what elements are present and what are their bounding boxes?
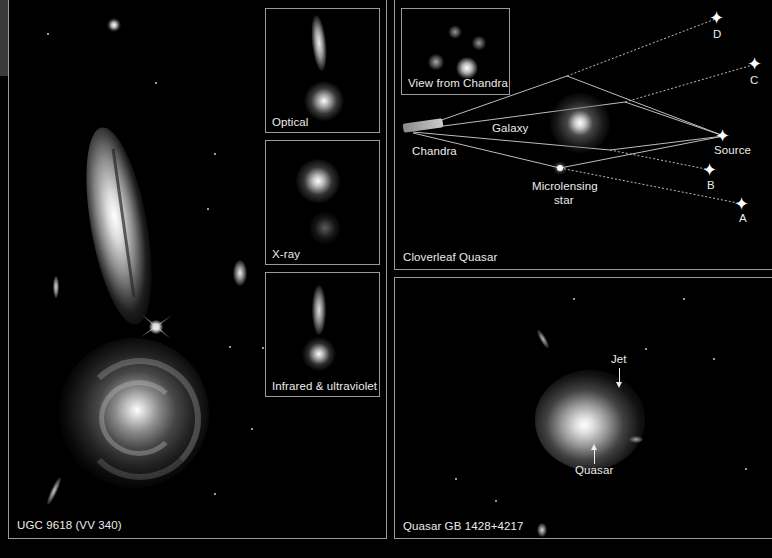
sparkle-icon-c: ✦ [747, 55, 762, 73]
label-image-c: C [750, 74, 758, 86]
small-galaxy [45, 476, 63, 506]
quasar-arrow-head [591, 444, 597, 450]
small-galaxy [535, 328, 551, 350]
star [207, 208, 209, 210]
panel-ugc-9618: Optical X-ray Infrared & ultraviolet UGC… [8, 0, 387, 539]
small-galaxy [53, 276, 59, 298]
star [214, 153, 216, 155]
label-image-a: A [739, 212, 747, 224]
inset-label: X-ray [272, 248, 300, 260]
small-galaxy [537, 523, 547, 537]
star [683, 298, 685, 300]
label-microlensing: Microlensing [532, 180, 598, 192]
sparkle-icon-b: ✦ [702, 161, 717, 179]
quasar-arrow-icon [594, 450, 595, 464]
label-jet: Jet [611, 353, 627, 365]
ir-galaxy [312, 285, 326, 335]
ir-spiral [302, 337, 336, 371]
label-chandra: Chandra [412, 145, 457, 157]
xray-blob-faint [310, 211, 340, 245]
label-image-d: D [713, 28, 721, 40]
inset-xray: X-ray [265, 140, 380, 265]
image-blob [472, 35, 486, 51]
bright-star [107, 18, 121, 32]
label-image-b: B [707, 179, 715, 191]
panel-label: Cloverleaf Quasar [403, 251, 497, 263]
star [455, 478, 457, 480]
panel-label: UGC 9618 (VV 340) [17, 519, 122, 531]
edge-on-galaxy [74, 123, 164, 330]
star [495, 500, 497, 502]
jet-arrow-head [616, 382, 622, 388]
small-galaxy [233, 260, 247, 286]
sparkle-icon-a: ✦ [734, 195, 749, 213]
sparkle-icon-d: ✦ [709, 9, 724, 27]
inset-infrared-uv: Infrared & ultraviolet [265, 272, 380, 397]
xray-blob [296, 159, 340, 203]
star [645, 348, 647, 350]
panel-quasar-gb1428: Jet Quasar Quasar GB 1428+4217 [394, 277, 772, 539]
image-blob [456, 57, 478, 79]
inset-view-from-chandra: View from Chandra [401, 8, 510, 95]
quasar-glow [535, 370, 645, 470]
galaxy-thumb [309, 14, 329, 71]
inset-optical: Optical [265, 8, 380, 133]
inset-label: View from Chandra [408, 77, 508, 89]
inset-label: Infrared & ultraviolet [272, 380, 377, 392]
star [745, 468, 747, 470]
panel-cloverleaf: ✦ ✦ ✦ ✦ ✦ View from Chandra Chandra Gala… [394, 0, 772, 270]
star [155, 82, 157, 84]
inset-label: Optical [272, 116, 309, 128]
label-galaxy: Galaxy [492, 122, 528, 134]
spiral-arm [99, 380, 179, 456]
spiral-thumb [304, 81, 344, 121]
star [573, 298, 575, 300]
label-source: Source [714, 144, 751, 156]
star [262, 347, 264, 349]
star [214, 493, 216, 495]
label-star: star [554, 194, 574, 206]
star [713, 358, 715, 360]
star [229, 346, 231, 348]
star [251, 428, 253, 430]
lensing-galaxy [550, 93, 610, 153]
label-quasar: Quasar [575, 464, 613, 476]
image-blob [428, 53, 444, 71]
sparkle-icon-source: ✦ [715, 127, 730, 145]
panel-label: Quasar GB 1428+4217 [403, 520, 524, 532]
microlensing-star [557, 165, 563, 171]
star [47, 33, 49, 35]
image-blob [448, 25, 462, 39]
